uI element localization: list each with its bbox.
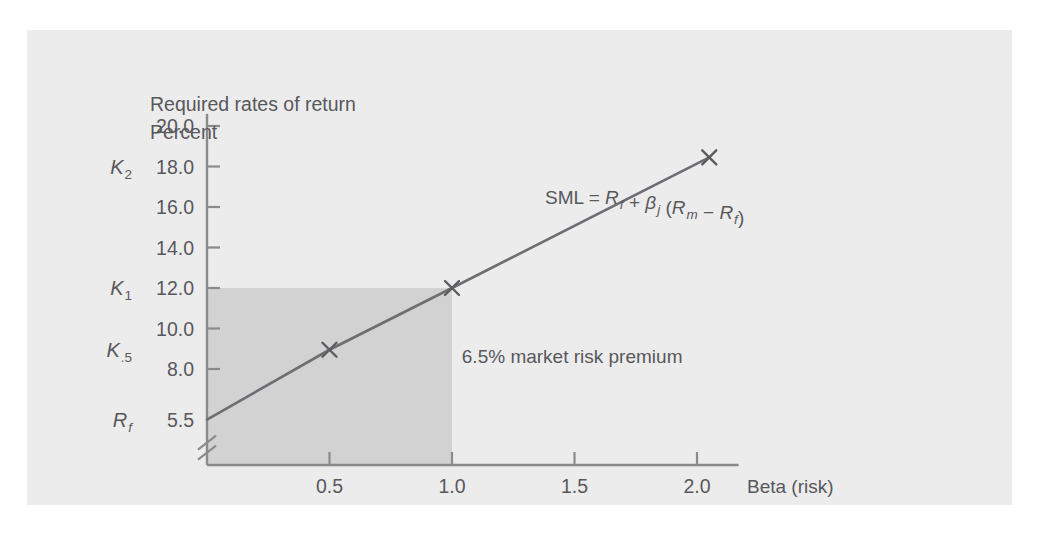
chart-title: Required rates of return — [150, 93, 356, 115]
axis-symbol-label-k5: K.5 — [106, 339, 132, 365]
y-tick-label: 14.0 — [156, 237, 194, 259]
shaded-premium-region — [207, 288, 452, 465]
sml-formula-label: SML = Rf + βj (Rm − Rf) — [545, 187, 744, 228]
x-tick-label: 2.0 — [683, 475, 710, 497]
security-market-line-chart: 20.018.016.014.012.010.08.05.5 0.51.01.5… — [27, 30, 1012, 505]
y-tick-label: 5.5 — [167, 409, 194, 431]
y-tick-label: 18.0 — [156, 156, 194, 178]
axis-symbol-label-k2: K2 — [110, 156, 132, 182]
axis-symbol-label-k1: K1 — [110, 277, 132, 303]
y-tick-label: 12.0 — [156, 277, 194, 299]
premium-annotation-label: 6.5% market risk premium — [462, 346, 683, 367]
y-axis-title: Percent — [150, 121, 218, 143]
x-tick-label: 0.5 — [316, 475, 343, 497]
market-risk-premium-rect — [207, 288, 452, 465]
x-tick-label: 1.5 — [561, 475, 588, 497]
y-tick-labels: 20.018.016.014.012.010.08.05.5 — [156, 115, 194, 431]
y-tick-label: 16.0 — [156, 196, 194, 218]
y-tick-label: 8.0 — [167, 358, 194, 380]
x-tick-labels: 0.51.01.52.0 — [316, 475, 711, 497]
x-axis-title: Beta (risk) — [747, 476, 834, 497]
figure-root: 20.018.016.014.012.010.08.05.5 0.51.01.5… — [0, 0, 1038, 534]
symbol-labels: K2K1K.5Rf — [106, 156, 133, 435]
chart-panel: 20.018.016.014.012.010.08.05.5 0.51.01.5… — [27, 30, 1012, 505]
y-tick-label: 10.0 — [156, 318, 194, 340]
sml-marker — [702, 150, 716, 164]
x-tick-label: 1.0 — [438, 475, 465, 497]
axis-symbol-label-rf: Rf — [113, 409, 133, 435]
